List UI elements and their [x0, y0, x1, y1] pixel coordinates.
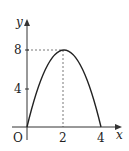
parabola-chart: y 8 4 O 2 4 x — [0, 0, 129, 151]
y-tick-label-8: 8 — [14, 43, 22, 57]
x-tick-label-2: 2 — [59, 131, 67, 145]
parabola-curve — [27, 50, 101, 127]
x-axis-label: x — [116, 128, 123, 142]
y-axis-arrow-icon — [24, 19, 30, 26]
y-tick-label-4: 4 — [14, 82, 22, 96]
x-tick-label-4: 4 — [97, 131, 105, 145]
origin-label: O — [13, 131, 23, 145]
y-axis-label: y — [15, 15, 23, 29]
